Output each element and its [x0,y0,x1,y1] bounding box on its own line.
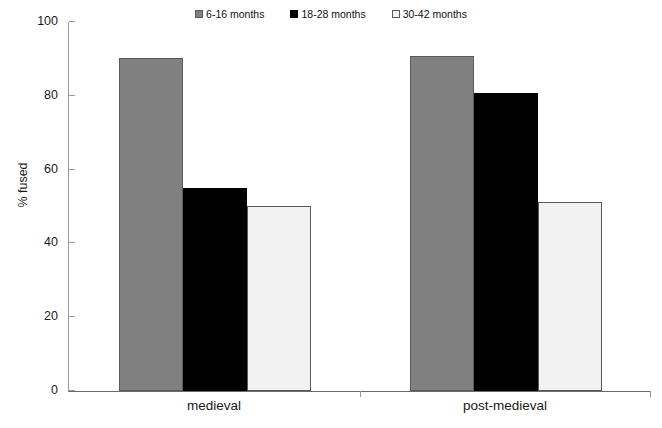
y-tick-mark-4 [69,95,75,96]
figure-container: 6-16 months18-28 months30-42 months 0204… [0,0,662,428]
legend-label-1: 18-28 months [301,8,365,20]
x-axis-group-separator-1 [360,391,361,397]
legend-swatch-icon-0 [195,10,203,18]
legend-entry-1: 18-28 months [290,8,365,20]
y-axis-title: % fused [12,0,34,370]
legend-label-2: 30-42 months [403,8,467,20]
x-axis-label-post-medieval: post-medieval [409,398,601,413]
bar-post-medieval-series-1 [474,93,538,391]
legend-swatch-icon-2 [392,10,400,18]
y-tick-label-3: 60 [44,162,58,176]
y-tick-mark-3 [69,169,75,170]
bar-medieval-series-0 [119,58,183,391]
legend-swatch-icon-1 [290,10,298,18]
legend-entry-2: 30-42 months [392,8,467,20]
x-axis-end-tick [650,391,651,397]
y-tick-label-0: 0 [51,383,58,397]
bar-medieval-series-1 [183,188,247,392]
y-tick-mark-2 [69,242,75,243]
y-tick-label-1: 20 [44,309,58,323]
y-tick-label-5: 100 [37,14,58,28]
x-axis-label-medieval: medieval [118,398,310,413]
y-tick-mark-0 [69,390,75,391]
bar-post-medieval-series-0 [410,56,474,391]
y-tick-mark-5 [69,21,75,22]
y-tick-label-2: 40 [44,235,58,249]
bar-post-medieval-series-2 [538,202,602,391]
bar-medieval-series-2 [247,206,311,391]
chart-legend: 6-16 months18-28 months30-42 months [0,8,662,20]
legend-entry-0: 6-16 months [195,8,264,20]
legend-label-0: 6-16 months [206,8,264,20]
plot-area: 020406080100 [68,22,650,392]
y-tick-label-4: 80 [44,88,58,102]
y-tick-mark-1 [69,316,75,317]
